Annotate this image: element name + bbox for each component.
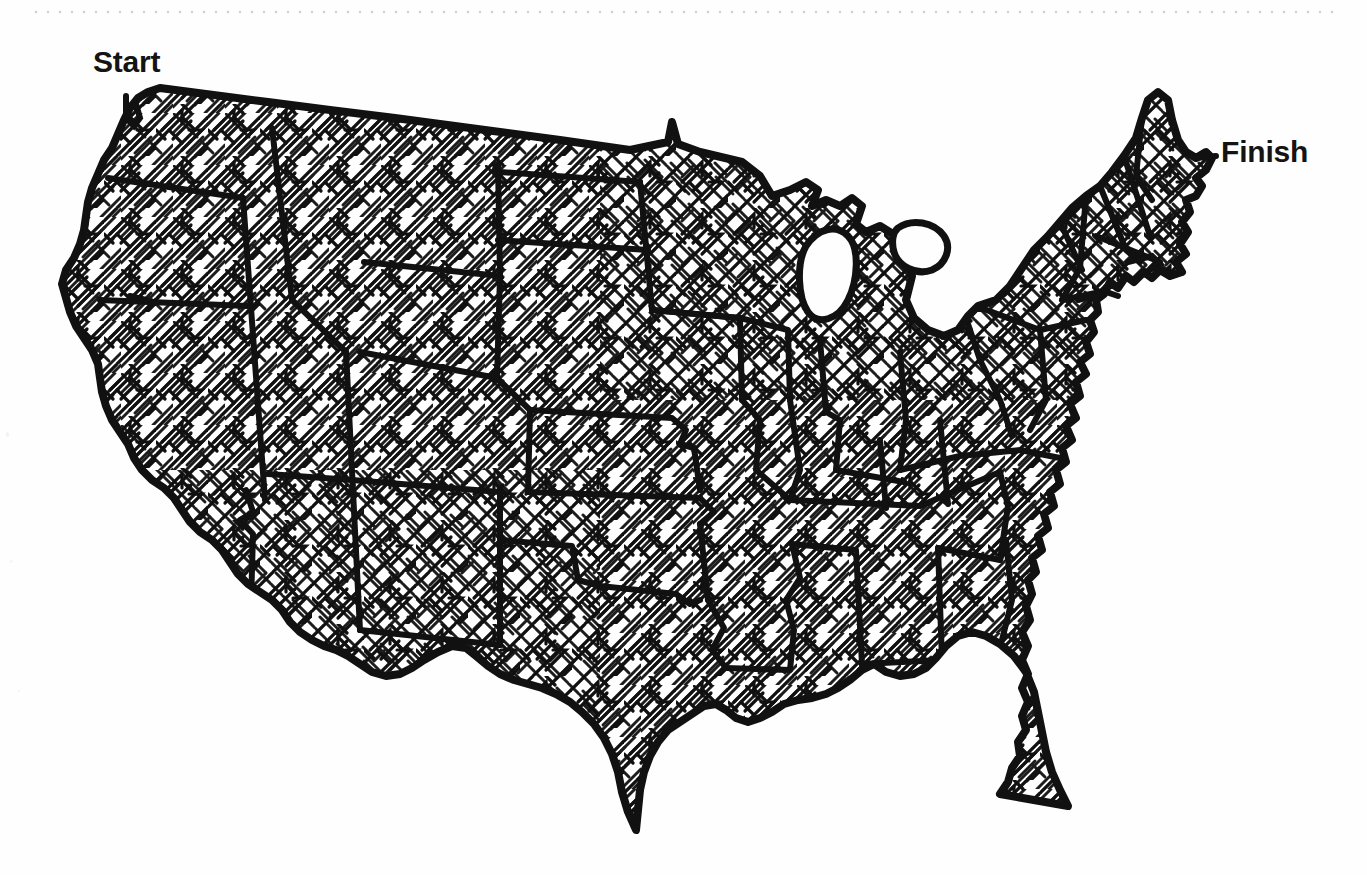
lake-michigan: [799, 229, 856, 319]
lake-huron: [893, 222, 948, 271]
finish-label: Finish: [1221, 137, 1308, 167]
usa-maze-map[interactable]: [0, 0, 1367, 875]
start-label: Start: [93, 47, 160, 77]
maze-exit-marker: [1196, 156, 1216, 158]
maze-page: Start Finish: [0, 0, 1367, 875]
maze-interior-fill: [40, 70, 1260, 860]
